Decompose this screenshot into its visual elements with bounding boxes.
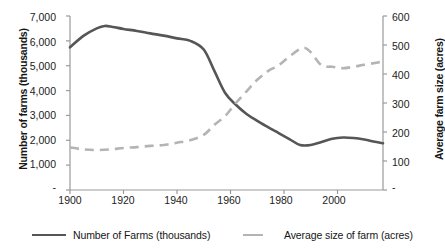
chart-legend: Number of Farms (thousands) Average size… [0,222,445,248]
legend-item-number-of-farms: Number of Farms (thousands) [32,222,210,248]
legend-swatch-dashed-line [243,234,277,237]
legend-item-average-farm-size: Average size of farm (acres) [243,222,413,248]
chart-container: Number of farms (thousands) Average farm… [0,0,445,248]
series-number-of-farms-line [70,26,383,146]
series-average-farm-size-line [70,48,383,150]
legend-label-number-of-farms: Number of Farms (thousands) [73,229,210,241]
legend-label-average-farm-size: Average size of farm (acres) [284,229,413,241]
axis-lines [70,16,383,190]
plot-area [0,0,445,248]
x-axis-ticks [70,190,338,194]
legend-swatch-solid-line [32,234,66,236]
